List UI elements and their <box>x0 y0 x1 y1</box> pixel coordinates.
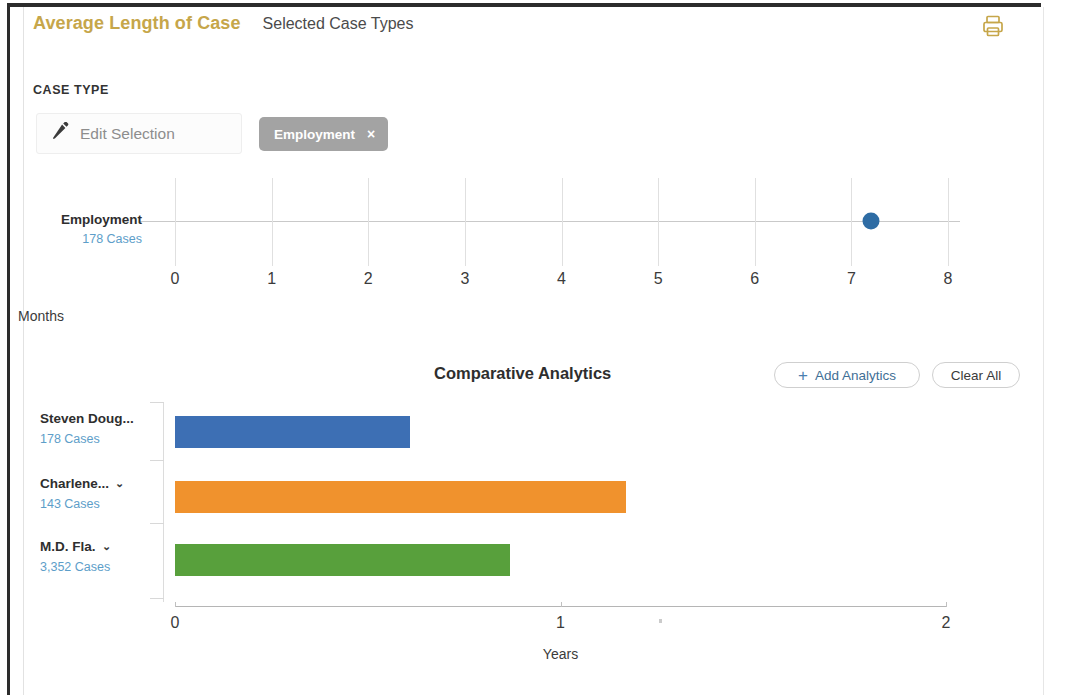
bar-chart-row-separator <box>150 460 164 461</box>
case-type-chip-employment[interactable]: Employment × <box>259 117 388 151</box>
dot-plot-tick-label: 4 <box>557 270 566 288</box>
bar-chart-value-axis <box>163 402 164 602</box>
bar-chart-tick-label: 2 <box>942 614 951 632</box>
dot-plot-tick-label: 1 <box>267 270 276 288</box>
dot-plot-row-line <box>140 221 960 222</box>
panel-right-divider <box>1043 7 1044 695</box>
bar-chart-row-label-text: M.D. Fla. <box>40 539 96 554</box>
edit-selection-label: Edit Selection <box>80 125 175 143</box>
bar-chart-row-cases[interactable]: 143 Cases <box>40 497 100 511</box>
bar-chart-axis-title: Years <box>175 646 946 662</box>
dot-plot-row-cases[interactable]: 178 Cases <box>44 232 142 246</box>
dot-plot-gridline <box>948 178 949 266</box>
bar-chart-row-separator <box>150 523 164 524</box>
bar-chart-row-label-text: Steven Doug... <box>40 411 134 426</box>
clear-all-label: Clear All <box>951 368 1001 383</box>
plus-icon: + <box>798 367 808 384</box>
dot-plot-gridline <box>368 178 369 266</box>
dot-plot-gridline <box>465 178 466 266</box>
bar-chart-tick-mark <box>175 602 176 607</box>
bar-chart-tick-mark <box>946 602 947 607</box>
dot-plot-tick-label: 5 <box>654 270 663 288</box>
pencil-icon <box>51 122 70 145</box>
bar-chart-row-label-text: Charlene... <box>40 476 109 491</box>
dot-plot-gridline <box>175 178 176 266</box>
bar-chart-row-separator <box>150 402 164 403</box>
dot-plot-tick-label: 8 <box>944 270 953 288</box>
dot-plot-tick-label: 6 <box>750 270 759 288</box>
bar-chart-tick-mark <box>561 602 562 607</box>
bar-chart-row-label: M.D. Fla.⌄ <box>40 539 150 554</box>
print-icon[interactable] <box>978 10 1008 42</box>
clear-all-button[interactable]: Clear All <box>932 362 1020 388</box>
scan-artifact <box>659 619 662 623</box>
panel-header: Average Length of Case Selected Case Typ… <box>33 13 414 34</box>
dot-plot-gridline <box>851 178 852 266</box>
months-dot-plot: Employment 178 Cases 012345678 Months <box>0 170 1040 320</box>
bar-chart-row-label: Charlene...⌄ <box>40 476 150 491</box>
dot-plot-gridline <box>658 178 659 266</box>
add-analytics-button[interactable]: + Add Analytics <box>774 362 920 388</box>
dot-plot-gridline <box>272 178 273 266</box>
dot-plot-gridline <box>755 178 756 266</box>
page-subtitle: Selected Case Types <box>263 15 414 33</box>
years-bar-chart: Steven Doug...178 CasesCharlene...⌄143 C… <box>0 398 1040 678</box>
add-analytics-label: Add Analytics <box>815 368 896 383</box>
dot-plot-axis-title: Months <box>18 308 64 324</box>
dot-plot-point[interactable] <box>862 213 879 230</box>
dot-plot-tick-label: 0 <box>171 270 180 288</box>
chevron-down-icon[interactable]: ⌄ <box>115 477 124 490</box>
scan-frame-top <box>7 3 1041 7</box>
bar-chart-bar[interactable] <box>175 416 410 448</box>
bar-chart-bar[interactable] <box>175 544 510 576</box>
bar-chart-tick-label: 1 <box>556 614 565 632</box>
edit-selection-button[interactable]: Edit Selection <box>36 113 242 154</box>
dot-plot-axis-title-wrap: Months <box>0 308 1040 324</box>
bar-chart-row-cases[interactable]: 3,352 Cases <box>40 560 110 574</box>
chip-label: Employment <box>274 127 355 142</box>
bar-chart-row-separator <box>150 598 164 599</box>
bar-chart-bar[interactable] <box>175 481 626 513</box>
screenshot-root: Average Length of Case Selected Case Typ… <box>0 0 1078 695</box>
bar-chart-tick-label: 0 <box>171 614 180 632</box>
case-type-section-label: CASE TYPE <box>33 83 109 97</box>
chevron-down-icon[interactable]: ⌄ <box>102 540 111 553</box>
dot-plot-row-label: Employment <box>44 212 142 227</box>
page-title: Average Length of Case <box>33 13 241 34</box>
chip-remove-icon[interactable]: × <box>367 127 375 141</box>
dot-plot-tick-label: 2 <box>364 270 373 288</box>
dot-plot-gridline <box>562 178 563 266</box>
dot-plot-tick-label: 7 <box>847 270 856 288</box>
comparative-analytics-title: Comparative Analytics <box>434 364 611 383</box>
bar-chart-row-label: Steven Doug... <box>40 411 150 426</box>
dot-plot-tick-label: 3 <box>460 270 469 288</box>
bar-chart-row-cases[interactable]: 178 Cases <box>40 432 100 446</box>
